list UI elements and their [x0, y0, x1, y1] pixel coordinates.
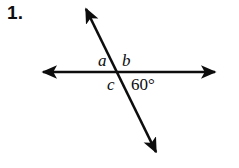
angle-label-b: b [122, 52, 131, 69]
angle-label-a: a [98, 52, 107, 69]
problem-number: 1. [7, 3, 23, 22]
figure-canvas: 1. a b c 60° [0, 0, 239, 168]
angle-label-c: c [107, 76, 115, 93]
geometry-figure [0, 0, 239, 168]
angle-label-60-degrees: 60° [131, 76, 155, 93]
